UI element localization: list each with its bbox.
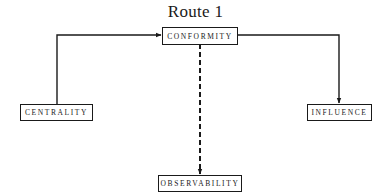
node-label: CENTRALITY [25, 108, 88, 117]
node-label: INFLUENCE [311, 108, 367, 117]
node-label: CONFORMITY [167, 32, 233, 41]
node-observability: OBSERVABILITY [158, 175, 242, 192]
edge-conformity-to-influence [238, 35, 339, 103]
node-centrality: CENTRALITY [20, 104, 93, 121]
node-label: OBSERVABILITY [161, 179, 240, 188]
edge-centrality-to-conformity [57, 35, 161, 104]
node-conformity: CONFORMITY [162, 27, 238, 45]
node-influence: INFLUENCE [307, 104, 372, 121]
